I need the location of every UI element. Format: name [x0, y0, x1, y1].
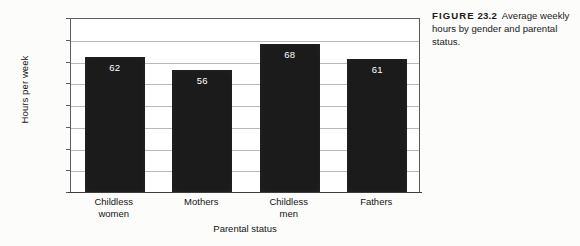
bar-value-label: 56 [172, 75, 232, 86]
bar-value-label: 61 [347, 64, 407, 75]
gridline [71, 41, 419, 42]
figure-caption: FIGURE 23.2 Average weekly hours by gend… [432, 9, 572, 49]
x-axis-tick-label-line: women [70, 208, 158, 220]
x-axis-tick-label: Mothers [158, 196, 246, 208]
figure-container: Hours per week 80706050403020100 6256686… [0, 0, 580, 246]
bar: 62 [85, 57, 145, 192]
x-axis-tick-label-line: Mothers [158, 196, 246, 208]
x-axis-tick-label: Childlessmen [245, 196, 333, 219]
x-axis-line [68, 192, 422, 193]
x-axis-tick-label: Fathers [333, 196, 421, 208]
bar: 68 [260, 44, 320, 192]
y-axis-title: Hours per week [19, 35, 30, 145]
bar-value-label: 62 [85, 62, 145, 73]
bar: 56 [172, 70, 232, 192]
caption-figure-label: FIGURE [432, 10, 475, 21]
bar-value-label: 68 [260, 49, 320, 60]
x-axis-tick-label-line: men [245, 208, 333, 220]
x-axis-title: Parental status [70, 223, 420, 234]
caption-figure-number: 23.2 [478, 10, 497, 21]
x-axis-tick-label: Childlesswomen [70, 196, 158, 219]
plot-area: 62566861 [70, 18, 420, 192]
bar: 61 [347, 59, 407, 192]
x-axis-tick-label-line: Fathers [333, 196, 421, 208]
bar-chart: Hours per week 80706050403020100 6256686… [0, 0, 424, 246]
x-axis-tick-label-line: Childless [245, 196, 333, 208]
x-axis-tick-label-line: Childless [70, 196, 158, 208]
